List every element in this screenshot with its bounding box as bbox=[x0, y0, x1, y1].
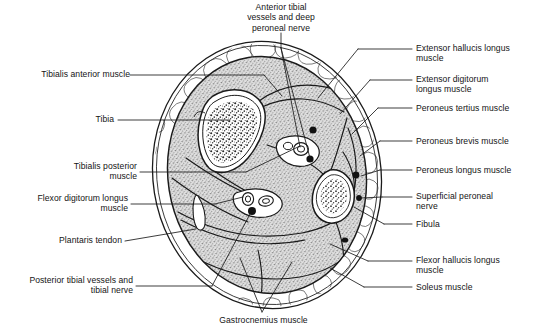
label-superficial-peroneal-nerve: Superficial peroneal nerve bbox=[416, 191, 526, 212]
label-fibula: Fibula bbox=[416, 219, 486, 229]
label-anterior-tibial-vessels-and-deep-peroneal-nerve: Anterior tibial vessels and deep peronea… bbox=[222, 2, 340, 33]
label-flexor-digitorum-longus-muscle: Flexor digitorum longus muscle bbox=[10, 193, 128, 214]
label-tibialis-anterior-muscle: Tibialis anterior muscle bbox=[14, 69, 130, 79]
label-peroneus-brevis-muscle: Peroneus brevis muscle bbox=[416, 136, 534, 146]
label-extensor-digitorum-longus-muscle: Extensor digitorum longus muscle bbox=[416, 74, 526, 95]
label-tibialis-posterior-muscle: Tibialis posterior muscle bbox=[36, 161, 137, 182]
label-tibia: Tibia bbox=[58, 114, 114, 124]
label-plantaris-tendon: Plantaris tendon bbox=[42, 235, 122, 245]
label-posterior-tibial-vessels-and-tibial-nerve: Posterior tibial vessels and tibial nerv… bbox=[4, 275, 133, 296]
label-flexor-hallucis-longus-muscle: Flexor hallucis longus muscle bbox=[416, 255, 534, 276]
label-gastrocnemius-muscle: Gastrocnemius muscle bbox=[196, 315, 331, 325]
label-soleus-muscle: Soleus muscle bbox=[416, 282, 516, 292]
label-peroneus-longus-muscle: Peroneus longus muscle bbox=[416, 165, 534, 175]
label-extensor-hallucis-longus-muscle: Extensor hallucis longus muscle bbox=[416, 43, 534, 64]
label-peroneus-tertius-muscle: Peroneus tertius muscle bbox=[416, 103, 534, 113]
anatomical-cross-section-figure: Tibialis anterior muscle Tibia Tibialis … bbox=[0, 0, 535, 331]
